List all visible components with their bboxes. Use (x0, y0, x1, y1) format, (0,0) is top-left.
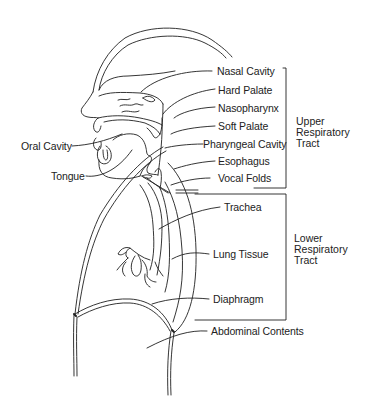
palate-and-pharynx (104, 104, 163, 176)
label-tongue: Tongue (51, 170, 85, 182)
diaphragm-line (74, 299, 174, 332)
label-vocal-folds: Vocal Folds (218, 172, 271, 184)
leader-pharyngeal-cavity (165, 144, 203, 148)
bronchial-tree (117, 247, 163, 287)
leader-soft-palate (171, 126, 215, 134)
skull-outline (93, 28, 232, 92)
leader-abdominal-contents (147, 331, 207, 348)
larynx (142, 169, 198, 193)
leader-oral-cavity (72, 134, 122, 146)
label-nasal-cavity: Nasal Cavity (217, 65, 275, 77)
leader-tongue (86, 150, 132, 176)
leader-hard-palate (163, 89, 215, 114)
label-abdominal-contents: Abdominal Contents (211, 325, 304, 337)
label-hard-palate: Hard Palate (218, 84, 272, 96)
group-label-lower-respiratory-tract: Lower Respiratory Tract (294, 233, 348, 266)
label-diaphragm: Diaphragm (213, 293, 263, 305)
label-lung-tissue: Lung Tissue (213, 248, 269, 260)
label-trachea: Trachea (224, 201, 261, 213)
label-nasopharynx: Nasopharynx (218, 102, 279, 114)
abdomen-walls (74, 315, 174, 395)
leader-lung-tissue (172, 253, 209, 259)
label-pharyngeal-cavity: Pharyngeal Cavity (203, 138, 287, 150)
leader-nasopharynx (174, 107, 215, 118)
label-soft-palate: Soft Palate (218, 120, 268, 132)
label-oral-cavity: Oral Cavity (21, 140, 72, 152)
leader-diaphragm (152, 298, 209, 304)
respiratory-tract-diagram: Nasal Cavity Hard Palate Nasopharynx Sof… (0, 0, 366, 414)
anatomy-drawing (0, 0, 366, 414)
leader-lines (72, 71, 220, 348)
leader-vocal-folds (171, 178, 210, 185)
label-esophagus: Esophagus (218, 155, 270, 167)
group-label-upper-respiratory-tract: Upper Respiratory Tract (296, 116, 350, 149)
leader-esophagus (174, 161, 215, 169)
